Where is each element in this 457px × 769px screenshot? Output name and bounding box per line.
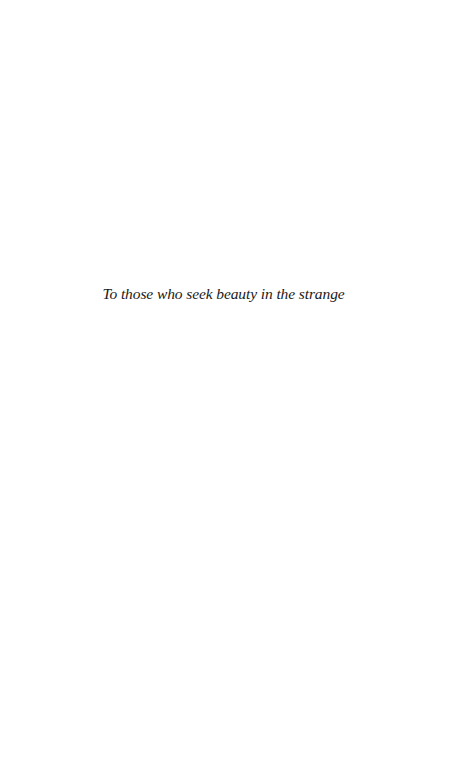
dedication-text: To those who seek beauty in the strange [0, 284, 447, 304]
book-page: To those who seek beauty in the strange [0, 0, 457, 769]
